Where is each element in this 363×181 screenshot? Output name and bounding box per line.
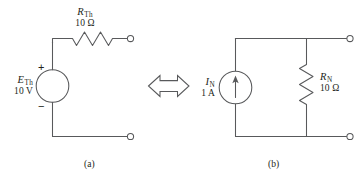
thevenin-caption: (a) bbox=[84, 159, 95, 169]
thevenin-resistor-symbol-text: RTh bbox=[62, 6, 108, 18]
circuit-drawing: .wire { fill: none; stroke: #58595b; str… bbox=[0, 0, 363, 181]
thevenin-resistor-symbol bbox=[68, 32, 127, 46]
thevenin-top-wire bbox=[53, 39, 69, 43]
norton-caption: (b) bbox=[268, 159, 279, 169]
thevenin-bottom-terminal bbox=[127, 133, 133, 139]
norton-top-terminal bbox=[347, 35, 353, 41]
equivalence-double-arrow-icon bbox=[149, 76, 190, 97]
thevenin-source-circle bbox=[36, 70, 69, 103]
thevenin-source-label: ETh 10 V bbox=[0, 74, 33, 96]
norton-source-label: IN 1 A bbox=[190, 76, 215, 98]
norton-source-value-text: 1 A bbox=[190, 88, 215, 98]
norton-resistor-symbol bbox=[300, 60, 314, 115]
thevenin-source-value-text: 10 V bbox=[0, 86, 33, 96]
norton-resistor-value-text: 10 Ω bbox=[320, 83, 362, 93]
equivalence-arrow-group bbox=[149, 76, 190, 97]
norton-source-symbol-text: IN bbox=[190, 76, 215, 88]
norton-resistor-label: RN 10 Ω bbox=[320, 71, 362, 93]
thevenin-resistor-value-text: 10 Ω bbox=[62, 18, 108, 28]
thevenin-minus-sign: − bbox=[38, 101, 44, 112]
thevenin-resistor-label: RTh 10 Ω bbox=[62, 6, 108, 28]
norton-bottom-terminal bbox=[347, 133, 353, 139]
thevenin-circuit-group bbox=[36, 32, 133, 140]
norton-resistor-symbol-text: RN bbox=[320, 71, 362, 83]
thevenin-top-terminal bbox=[127, 35, 133, 41]
thevenin-source-symbol-text: ETh bbox=[0, 74, 33, 86]
thevenin-plus-sign: + bbox=[38, 62, 44, 73]
circuit-figure: .wire { fill: none; stroke: #58595b; str… bbox=[0, 0, 363, 181]
